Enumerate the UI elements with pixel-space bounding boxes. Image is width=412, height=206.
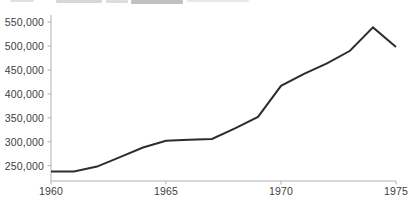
y-tick-label: 350,000: [2, 112, 44, 124]
x-tick-label: 1975: [379, 185, 412, 197]
axes: [48, 15, 397, 185]
data-series-line: [51, 27, 396, 171]
x-tick-label: 1965: [149, 185, 183, 197]
x-tick-label: 1970: [264, 185, 298, 197]
y-tick-label: 550,000: [2, 16, 44, 28]
chart-plot-area: [0, 0, 412, 206]
x-tick-label: 1960: [34, 185, 68, 197]
y-tick-label: 450,000: [2, 64, 44, 76]
y-tick-label: 300,000: [2, 136, 44, 148]
y-tick-label: 250,000: [2, 160, 44, 172]
series-polyline: [51, 27, 396, 171]
y-tick-label: 400,000: [2, 88, 44, 100]
line-chart-figure: 550,000500,000450,000400,000350,000300,0…: [0, 0, 412, 206]
y-tick-label: 500,000: [2, 40, 44, 52]
